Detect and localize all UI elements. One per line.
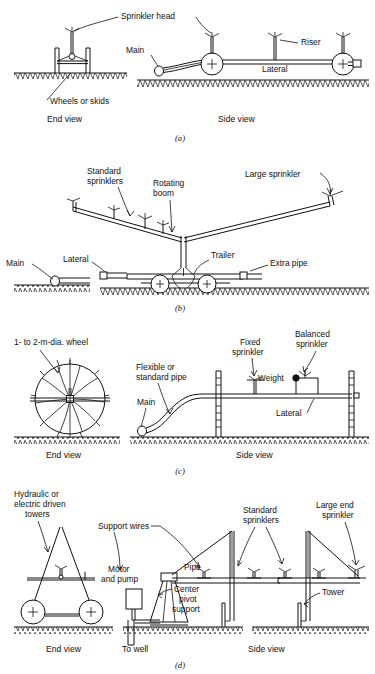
label-pivot-3: support	[172, 604, 201, 614]
sprinkler-d-l2	[247, 568, 261, 578]
label-to-well: To well	[122, 644, 148, 654]
sprinkler-head-icon-a-3	[336, 32, 350, 37]
trailer-wheel-2	[198, 275, 216, 293]
label-tower: Tower	[322, 587, 345, 597]
view-label-side-d: Side view	[248, 644, 286, 654]
label-main-b: Main	[6, 258, 24, 268]
view-label-end-d: End view	[46, 644, 82, 654]
label-fixed-2: sprinkler	[232, 347, 264, 357]
label-lateral-c: Lateral	[276, 408, 302, 418]
rotating-boom-right-arm	[184, 189, 343, 242]
label-hydraulic-2: electric driven	[14, 499, 66, 509]
sprinkler-d-r1	[278, 568, 292, 578]
label-pipe: Pipe	[184, 562, 201, 572]
label-wheel-dia: 1- to 2-m-dia. wheel	[14, 337, 88, 347]
riser-a-1	[205, 32, 219, 54]
label-large-end-1: Large end	[316, 500, 354, 510]
boom-mast-b	[172, 236, 195, 276]
label-main-c: Main	[137, 397, 155, 407]
ground-a-end	[14, 73, 127, 80]
standard-sprinkler-b-1	[108, 205, 120, 219]
label-rotating-boom-1: Rotating	[153, 178, 185, 188]
label-main-a: Main	[126, 45, 144, 55]
tower-end-view-d	[21, 527, 103, 624]
label-standard-sprinklers-b1: Standard	[87, 166, 121, 176]
label-wheels-or-skids: Wheels or skids	[50, 96, 109, 106]
extra-pipe-b	[240, 272, 262, 279]
wheel-a-1	[201, 53, 223, 75]
sprinkler-d-r2	[312, 568, 326, 578]
label-balanced-1: Balanced	[295, 329, 330, 339]
large-end-sprinkler-d	[348, 565, 366, 578]
label-std-spr-d2: sprinklers	[243, 515, 279, 525]
ground-a-side	[137, 80, 369, 87]
label-riser: Riser	[301, 37, 321, 47]
riser-a-2	[268, 32, 282, 60]
label-balanced-2: sprinkler	[296, 339, 328, 349]
trailer-wheel-1	[151, 275, 169, 293]
sprinkler-head-icon-a-1	[205, 32, 219, 37]
wheel-line-wheel-c	[30, 358, 110, 438]
rotating-boom-left-arm	[67, 198, 182, 242]
ground-d-right	[252, 627, 369, 634]
label-extra-pipe: Extra pipe	[270, 258, 308, 268]
view-label-end-a: End view	[47, 114, 83, 124]
motor-and-pump-d	[126, 589, 160, 645]
label-rotating-boom-2: boom	[153, 188, 174, 198]
label-lateral-b: Lateral	[63, 254, 89, 264]
pipe-span-d-right	[278, 578, 360, 583]
label-std-spr-d1: Standard	[243, 505, 277, 515]
sprinkler-icon-d-end	[55, 565, 67, 579]
label-support-wires: Support wires	[98, 521, 149, 531]
label-fixed-1: Fixed	[240, 337, 261, 347]
panel-b: Standard sprinklers Rotating boom Large …	[6, 166, 369, 313]
wheel-side-c-2	[349, 371, 359, 437]
label-trailer: Trailer	[211, 250, 235, 260]
ground-b-left	[14, 285, 90, 292]
label-large-end-2: sprinkler	[322, 510, 354, 520]
large-sprinkler-icon-b	[322, 189, 343, 196]
label-sprinkler-head: Sprinkler head	[121, 11, 175, 21]
panel-c: 1- to 2-m-dia. wheel Flexible or standar…	[14, 329, 369, 476]
sprinkler-head-icon-a-2	[268, 32, 282, 37]
label-motor-2: and pump	[101, 574, 139, 584]
view-label-end-c: End view	[46, 450, 82, 460]
view-label-side-c: Side view	[236, 450, 274, 460]
balanced-sprinkler-c	[293, 370, 318, 394]
ground-c-end	[14, 437, 120, 444]
label-flexible-1: Flexible or	[136, 362, 175, 372]
label-standard-sprinklers-b2: sprinklers	[87, 176, 123, 186]
label-hydraulic-1: Hydraulic or	[14, 489, 59, 499]
ground-d-pivot	[123, 627, 243, 634]
label-hydraulic-3: towers	[25, 509, 50, 519]
caption-d: (d)	[175, 660, 185, 670]
lateral-pipe-c	[204, 394, 352, 398]
riser-a-3	[336, 32, 350, 54]
label-weight: Weight	[258, 373, 285, 383]
view-label-side-a: Side view	[218, 114, 256, 124]
label-large-sprinkler: Large sprinkler	[245, 169, 301, 179]
label-flexible-2: standard pipe	[136, 372, 187, 382]
ground-d-end	[14, 627, 113, 634]
ground-c-side	[130, 437, 369, 444]
ground-b-right	[100, 288, 369, 295]
skid-frame-a	[55, 27, 90, 73]
caption-c: (c)	[175, 466, 185, 476]
trailer-b	[127, 274, 243, 288]
main-riser-a	[155, 60, 205, 76]
lateral-b	[100, 272, 127, 279]
label-lateral-a: Lateral	[262, 64, 288, 74]
wheel-a-2	[332, 53, 361, 75]
wheel-side-c-1	[216, 371, 221, 437]
label-pivot-1: Center	[174, 584, 199, 594]
panel-d: Hydraulic or electric driven towers Supp…	[14, 489, 369, 670]
panel-a: Sprinkler head Riser Main Lateral Wheels…	[14, 11, 369, 143]
caption-a: (a)	[175, 133, 185, 143]
sprinkler-systems-figure: Sprinkler head Riser Main Lateral Wheels…	[0, 0, 375, 674]
label-pivot-2: pivot	[179, 594, 197, 604]
caption-b: (b)	[175, 303, 185, 313]
label-motor-1: Motor	[108, 564, 130, 574]
pipe-span-d-left	[172, 578, 280, 583]
figure-canvas: Sprinkler head Riser Main Lateral Wheels…	[0, 0, 375, 674]
